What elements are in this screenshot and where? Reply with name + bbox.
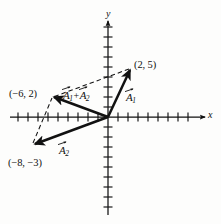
vector-label-a1: A 1	[126, 92, 136, 104]
vector-accent-sum-second: A	[80, 90, 87, 101]
vector-letter-sum-first: A	[63, 90, 70, 101]
vector-subscript-sum-second: 2	[86, 94, 90, 103]
vector-arrow-accent-icon	[125, 88, 134, 93]
vector-a2	[35, 117, 108, 144]
vector-accent-a1: A	[126, 92, 133, 103]
vector-label-a2: A 2	[59, 145, 69, 157]
vector-letter-a1: A	[126, 92, 133, 103]
vector-group	[35, 70, 130, 144]
x-axis-label: x	[208, 110, 212, 120]
vector-arrow-accent-icon	[58, 141, 67, 146]
point-label-a2: (−8, −3)	[8, 158, 42, 169]
vector-accent-sum-first: A	[63, 90, 70, 101]
point-label-sum: (−6, 2)	[9, 89, 37, 100]
plus-sign: +	[73, 90, 79, 101]
point-label-a1: (2, 5)	[134, 60, 156, 71]
vector-label-sum: A 1+ A 2	[63, 90, 90, 102]
y-axis-label: y	[106, 9, 110, 19]
vector-addition-figure: (2, 5) (−6, 2) (−8, −3) A 1 A 2 A 1	[0, 0, 221, 224]
vector-letter-a2: A	[59, 145, 66, 156]
vector-arrow-accent-icon	[62, 86, 71, 91]
vector-letter-sum-second: A	[80, 90, 87, 101]
plot-canvas	[0, 0, 221, 224]
vector-arrow-accent-icon	[79, 86, 88, 91]
dashed-line-a2-to-sum	[33, 98, 52, 143]
vector-accent-a2: A	[59, 145, 66, 156]
